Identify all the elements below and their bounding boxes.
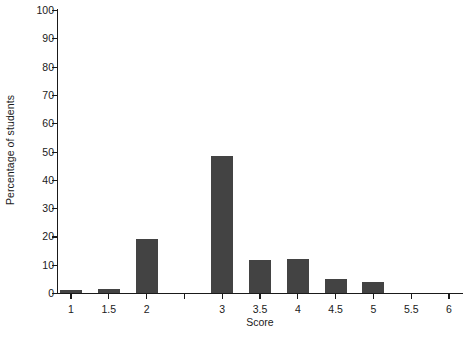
y-tick-label: 20 bbox=[42, 230, 54, 242]
x-tick-label: 3 bbox=[219, 303, 225, 315]
bar-3 bbox=[211, 156, 233, 293]
x-tick-label: 1.5 bbox=[101, 303, 116, 315]
bar-1 bbox=[60, 290, 82, 293]
x-tick-mark bbox=[70, 293, 71, 299]
x-tick-label: 2 bbox=[144, 303, 150, 315]
x-tick-mark bbox=[448, 293, 449, 299]
x-tick-mark bbox=[222, 293, 223, 299]
x-tick-mark bbox=[108, 293, 109, 299]
bar-5 bbox=[362, 282, 384, 293]
bar-chart: Percentage of students 01020304050607080… bbox=[0, 0, 471, 338]
y-tick-label: 0 bbox=[48, 287, 54, 299]
plot-area: 0102030405060708090100 11.5233.544.555.5… bbox=[58, 10, 462, 293]
x-tick-label: 5 bbox=[370, 303, 376, 315]
bar-4.5 bbox=[325, 279, 347, 293]
x-tick-label: 4.5 bbox=[328, 303, 343, 315]
x-tick-label: 4 bbox=[295, 303, 301, 315]
x-tick-mark bbox=[259, 293, 260, 299]
x-axis-title: Score bbox=[58, 316, 462, 328]
bar-2 bbox=[136, 239, 158, 293]
x-tick-label: 3.5 bbox=[253, 303, 268, 315]
x-tick-label: 6 bbox=[446, 303, 452, 315]
y-tick-label: 100 bbox=[36, 4, 54, 16]
y-tick-label: 70 bbox=[42, 89, 54, 101]
y-tick-label: 40 bbox=[42, 174, 54, 186]
x-tick-label: 5.5 bbox=[404, 303, 419, 315]
bar-1.5 bbox=[98, 289, 120, 293]
x-tick-mark bbox=[297, 293, 298, 299]
x-tick-mark bbox=[146, 293, 147, 299]
y-tick-label: 10 bbox=[42, 259, 54, 271]
y-tick-label: 80 bbox=[42, 61, 54, 73]
y-tick-label: 60 bbox=[42, 117, 54, 129]
bar-3.5 bbox=[249, 260, 271, 293]
y-axis-title-label: Percentage of students bbox=[4, 95, 16, 205]
x-tick-mark bbox=[411, 293, 412, 299]
y-tick-label: 50 bbox=[42, 146, 54, 158]
x-tick-mark bbox=[335, 293, 336, 299]
bar-4 bbox=[287, 259, 309, 293]
y-axis-title: Percentage of students bbox=[0, 0, 20, 300]
y-tick-label: 30 bbox=[42, 202, 54, 214]
y-tick-label: 90 bbox=[42, 32, 54, 44]
x-tick-mark bbox=[184, 293, 185, 299]
x-tick-label: 1 bbox=[68, 303, 74, 315]
x-tick-mark bbox=[373, 293, 374, 299]
